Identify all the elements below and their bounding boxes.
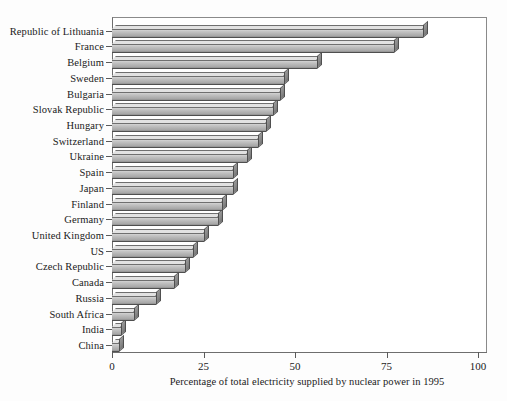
bar-front-face <box>112 29 423 38</box>
bar-end-cap <box>423 20 428 37</box>
bar <box>112 198 227 211</box>
bar-front-face <box>112 280 174 289</box>
bar-end-cap <box>258 130 263 147</box>
bar-front-face <box>112 139 258 148</box>
bar-front-face <box>112 107 273 116</box>
bar <box>112 323 126 336</box>
bar-end-cap <box>174 272 179 289</box>
bar-end-cap <box>204 225 209 242</box>
bar-front-face <box>112 264 185 273</box>
x-axis-caption: Percentage of total electricity supplied… <box>112 376 502 387</box>
bar-front-face <box>112 249 193 258</box>
bar <box>112 150 252 163</box>
bar-end-cap <box>266 115 271 132</box>
bar <box>112 88 285 101</box>
bar-end-cap <box>185 256 190 273</box>
bar-end-cap <box>284 67 289 84</box>
x-axis-tick <box>295 352 296 358</box>
bar <box>112 135 263 148</box>
x-axis-tick <box>204 352 205 358</box>
x-axis-tick <box>387 352 388 358</box>
bar-end-cap <box>247 146 252 163</box>
bar-front-face <box>112 76 284 85</box>
x-axis-line <box>112 352 487 353</box>
bar <box>112 72 289 85</box>
chart-figure: ChinaIndiaSouth AfricaRussiaCanadaCzech … <box>0 0 507 401</box>
bar-end-cap <box>233 177 238 194</box>
x-axis-tick-label: 100 <box>458 360 498 372</box>
x-axis-tick-label: 75 <box>367 360 407 372</box>
bar <box>112 276 179 289</box>
bar <box>112 40 399 53</box>
bar-front-face <box>112 92 280 101</box>
bar <box>112 292 161 305</box>
bar-end-cap <box>273 99 278 116</box>
bar-front-face <box>112 154 247 163</box>
bar-front-face <box>112 123 266 132</box>
bar <box>112 119 271 132</box>
bar-end-cap <box>156 287 161 304</box>
bar-front-face <box>112 170 233 179</box>
bar <box>112 182 238 195</box>
bar-end-cap <box>119 335 124 352</box>
bar-end-cap <box>134 303 139 320</box>
bar-series <box>0 0 507 401</box>
bar <box>112 308 139 321</box>
bar-front-face <box>112 186 233 195</box>
x-axis-tick-label: 25 <box>184 360 224 372</box>
bar-front-face <box>112 296 156 305</box>
bar-end-cap <box>121 319 126 336</box>
x-axis-tick <box>112 352 113 358</box>
bar-end-cap <box>280 83 285 100</box>
bar-end-cap <box>218 209 223 226</box>
bar-end-cap <box>233 162 238 179</box>
x-axis-tick <box>478 352 479 358</box>
bar-end-cap <box>394 36 399 53</box>
bar <box>112 229 209 242</box>
bar-front-face <box>112 202 222 211</box>
bar <box>112 56 322 69</box>
x-axis-tick-label: 0 <box>92 360 132 372</box>
bar-end-cap <box>222 193 227 210</box>
bar-front-face <box>112 44 394 53</box>
bar-front-face <box>112 217 218 226</box>
bar <box>112 103 278 116</box>
x-axis-tick-label: 50 <box>275 360 315 372</box>
bar <box>112 25 428 38</box>
bar <box>112 260 190 273</box>
bar-front-face <box>112 60 317 69</box>
bar <box>112 213 223 226</box>
bar <box>112 245 198 258</box>
bar <box>112 166 238 179</box>
bar <box>112 339 124 352</box>
bar-front-face <box>112 233 204 242</box>
bar-front-face <box>112 327 121 336</box>
bar-end-cap <box>193 240 198 257</box>
bar-front-face <box>112 343 119 352</box>
bar-front-face <box>112 312 134 321</box>
bar-end-cap <box>317 52 322 69</box>
